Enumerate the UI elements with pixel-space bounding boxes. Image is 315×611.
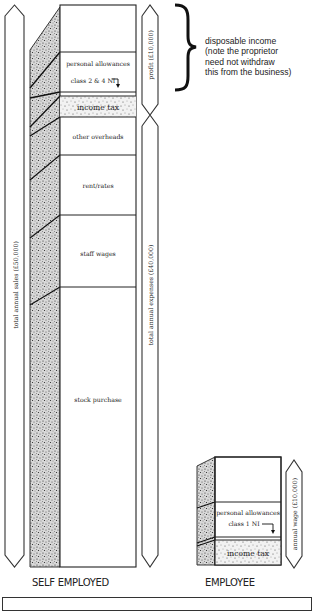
- bottom-frame: [2, 597, 312, 611]
- self-employed-caption: SELF EMPLOYED: [32, 577, 109, 588]
- sales-arrow: total annual sales (£50,000): [5, 5, 24, 567]
- self-employed-stipple-band: [30, 7, 60, 567]
- segment-rent-rates-label: rent/rates: [82, 182, 113, 189]
- employee-stipple-band: [197, 457, 215, 565]
- note-line: (note the proprietor: [205, 46, 315, 56]
- profit-arrow: profit (£10,000): [142, 5, 158, 126]
- curly-brace-icon: [175, 5, 196, 90]
- profit-arrow-label: profit (£10,000): [147, 30, 155, 80]
- segment-personal-allowances-label: personal allowances: [66, 60, 130, 68]
- note-line: this from the business): [205, 67, 315, 77]
- employee-caption: EMPLOYEE: [205, 577, 255, 588]
- segment-income-tax-label: income tax: [77, 103, 120, 112]
- wage-arrow: annual wage (£10,000): [286, 460, 302, 568]
- employee-income-tax-label: income tax: [227, 549, 270, 558]
- disposable-income-note: disposable income (note the proprietor n…: [205, 36, 315, 78]
- employee-ni-label: class 1 NI: [228, 520, 260, 527]
- segment-ni-label: class 2 & 4 NI: [71, 77, 116, 84]
- segment-staff-wages-label: staff wages: [80, 250, 116, 258]
- expenses-arrow: total annual expenses (£40,000): [142, 126, 158, 567]
- employee-column: personal allowances class 1 NI income ta…: [215, 457, 281, 565]
- expenses-arrow-label: total annual expenses (£40,000): [147, 245, 155, 346]
- segment-stock-purchase-label: stock purchase: [74, 396, 122, 404]
- wage-arrow-label: annual wage (£10,000): [291, 478, 299, 550]
- self-employed-column: personal allowances class 2 & 4 NI incom…: [60, 5, 136, 567]
- segment-other-overheads-label: other overheads: [72, 133, 123, 140]
- note-line: need not withdraw: [205, 57, 315, 67]
- employee-personal-allowances-label: personal allowances: [216, 509, 280, 517]
- sales-arrow-label: total annual sales (£50,000): [12, 241, 19, 329]
- note-line: disposable income: [205, 36, 315, 46]
